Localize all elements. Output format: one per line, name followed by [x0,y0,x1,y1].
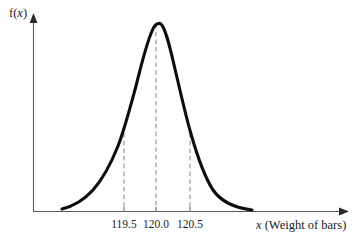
normal-distribution-figure: f(x) x (Weight of bars) 119.5 120.0 120.… [0,0,358,239]
y-axis-arrow-icon [30,13,38,23]
y-axis-label: f(x) [9,7,27,20]
tick-label-120-5: 120.5 [170,219,210,231]
normal-density-curve [62,23,252,210]
x-axis-label: x (Weight of bars) [256,219,346,232]
x-axis-label-caption: (Weight of bars) [262,218,347,232]
y-axis-label-suffix: ) [23,6,27,20]
x-axis-arrow-icon [339,208,349,216]
plot-canvas [0,0,358,239]
